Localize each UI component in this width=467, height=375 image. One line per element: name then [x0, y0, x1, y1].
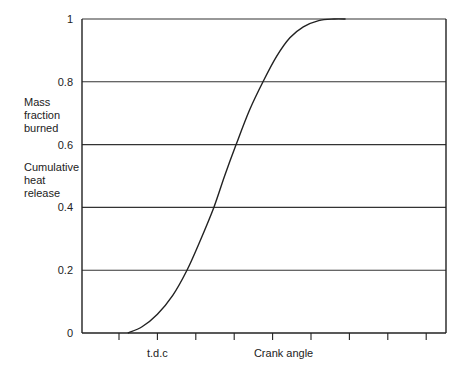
x-ticks [119, 333, 426, 340]
y-tick-label: 0.2 [58, 264, 73, 276]
y-label-line: release [24, 187, 60, 199]
y-tick-label: 1 [67, 13, 73, 25]
x-axis-label: Crank angle [254, 347, 313, 359]
y-label-line: heat [24, 174, 45, 186]
y-label-line: Mass [24, 96, 51, 108]
series-line-mass-fraction-burned [128, 19, 346, 333]
y-tick-label: 0.4 [58, 201, 73, 213]
chart: 00.20.40.60.81 t.d.c Crank angle Massfra… [0, 0, 467, 375]
y-tick-label: 0.8 [58, 76, 73, 88]
y-tick-label: 0 [67, 327, 73, 339]
axes [82, 19, 446, 333]
tdc-annotation: t.d.c [147, 347, 168, 359]
y-label-line: fraction [24, 109, 60, 121]
y-label-line: burned [24, 122, 58, 134]
y-tick-label: 0.6 [58, 139, 73, 151]
y-tick-labels: 00.20.40.60.81 [58, 13, 73, 339]
y-label-line: Cumulative [24, 161, 79, 173]
gridlines [82, 19, 446, 270]
